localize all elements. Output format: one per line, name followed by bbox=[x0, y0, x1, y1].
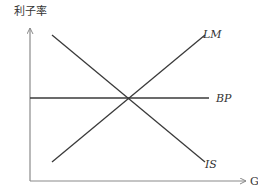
islmbp-diagram: 利子率 GDP LM BP IS bbox=[0, 0, 258, 195]
x-axis-label: GDP bbox=[250, 175, 258, 188]
is-label: IS bbox=[204, 158, 217, 171]
y-axis-label: 利子率 bbox=[14, 4, 47, 18]
lm-label: LM bbox=[202, 28, 222, 41]
bp-label: BP bbox=[215, 92, 232, 105]
